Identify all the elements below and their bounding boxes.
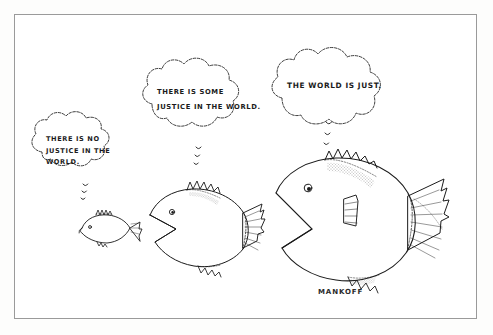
thought-bubble-medium-text: THERE IS SOME JUSTICE IN THE WORLD. (157, 85, 261, 115)
fish-medium (150, 181, 265, 277)
fish-large (276, 149, 449, 293)
fish-small (79, 210, 142, 247)
thought-trail-medium (194, 147, 201, 165)
bubble-small-line-3: WORLD. (46, 157, 110, 169)
cartoon-page: THERE IS NO JUSTICE IN THE WORLD. THERE … (0, 0, 493, 335)
bubble-large-line-1: THE WORLD IS JUST. (287, 80, 382, 92)
bubble-medium-line-1: THERE IS SOME (157, 85, 261, 100)
bubble-small-line-2: JUSTICE IN THE (46, 146, 110, 158)
bubble-small-line-1: THERE IS NO (46, 134, 110, 146)
thought-trail-small (81, 184, 88, 200)
bubble-medium-line-2: JUSTICE IN THE WORLD. (157, 100, 261, 115)
thought-trail-large (324, 122, 332, 145)
thought-bubble-small-text: THERE IS NO JUSTICE IN THE WORLD. (46, 134, 110, 169)
thought-bubble-large-text: THE WORLD IS JUST. (287, 80, 382, 92)
artist-signature: MANKOFF (318, 288, 363, 296)
